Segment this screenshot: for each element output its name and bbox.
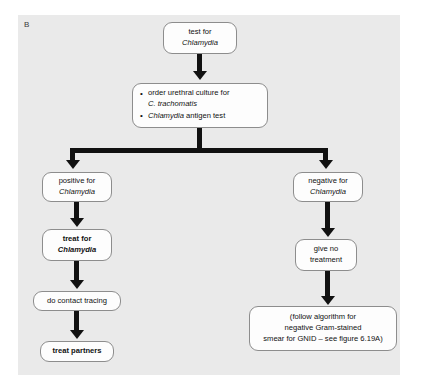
node-follow-algorithm-line2: negative Gram-stained [285, 323, 362, 334]
node-treat-for-chlamydia: treat for Chlamydia [42, 229, 112, 261]
panel-label: B [24, 20, 30, 29]
node-positive-line1: positive for [59, 176, 96, 187]
node-contact-tracing-label: do contact tracing [47, 296, 107, 307]
node-test-for-chlamydia: test for Chlamydia [163, 22, 237, 54]
node-negative-line2: Chlamydia [310, 187, 346, 198]
node-do-contact-tracing: do contact tracing [33, 291, 121, 311]
node-positive-for-chlamydia: positive for Chlamydia [42, 172, 112, 202]
node-treat-for-line2: Chlamydia [58, 245, 96, 256]
node-positive-line2: Chlamydia [59, 187, 95, 198]
figure-panel: B test for Chlamydia order urethral cult… [18, 15, 400, 375]
node-follow-algorithm-line3: smear for GNID – see figure 6.19A) [263, 334, 382, 345]
node-give-no-treatment: give no treatment [295, 239, 357, 271]
orders-bullet-2: Chlamydia antigen test [140, 111, 229, 122]
node-follow-algorithm-line1: (follow algorithm for [290, 312, 356, 323]
node-test-line2: Chlamydia [182, 38, 218, 49]
node-follow-algorithm: (follow algorithm for negative Gram-stai… [249, 306, 397, 351]
node-negative-line1: negative for [308, 176, 348, 187]
node-give-no-treatment-line1: give no [314, 244, 339, 255]
node-orders: order urethral culture for C. trachomati… [132, 83, 268, 128]
node-test-line1: test for [188, 27, 211, 38]
node-give-no-treatment-line2: treatment [310, 255, 342, 266]
node-treat-for-line1: treat for [63, 234, 92, 245]
node-treat-partners-label: treat partners [53, 346, 102, 357]
orders-bullet-1: order urethral culture for C. trachomati… [140, 88, 229, 110]
node-negative-for-chlamydia: negative for Chlamydia [293, 172, 363, 202]
node-treat-partners: treat partners [40, 341, 114, 362]
